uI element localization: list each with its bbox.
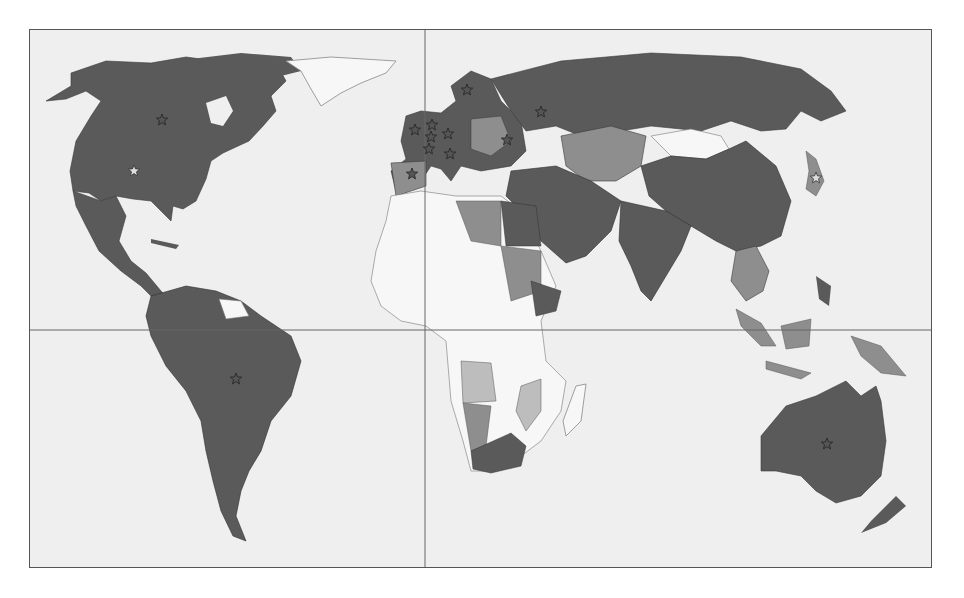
region-central-asia: [561, 126, 646, 181]
region-mexico-central-america: [73, 191, 171, 306]
region-greenland: [286, 57, 396, 106]
region-russia: [491, 53, 846, 136]
region-indonesia: [736, 309, 906, 379]
region-caribbean: [151, 239, 179, 249]
region-angola: [461, 361, 496, 403]
world-map-frame: CanadaUnited StatesBrazilUnited KingdomN…: [29, 29, 932, 568]
region-south-america: [146, 286, 301, 541]
region-madagascar: [563, 384, 586, 436]
world-map: CanadaUnited StatesBrazilUnited KingdomN…: [30, 30, 932, 568]
region-philippines: [816, 276, 831, 306]
region-southeast-asia: [731, 246, 769, 301]
region-new-zealand: [861, 496, 906, 533]
